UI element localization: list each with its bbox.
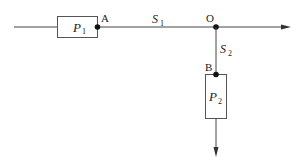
box-p1-subscript: 1	[82, 27, 86, 36]
point-o-label: O	[206, 12, 214, 24]
point-b-label: B	[205, 61, 212, 73]
box-p2-subscript: 2	[218, 97, 222, 106]
arrow-right-icon	[281, 25, 291, 30]
arrow-down-icon	[214, 147, 219, 157]
segment-s2-subscript: 2	[228, 49, 232, 58]
point-a-dot	[95, 24, 101, 30]
pipe-network-diagram: P 1 A S 1 O S 2 B P 2	[0, 0, 300, 163]
segment-s2-label: S	[220, 42, 226, 56]
point-b-dot	[213, 72, 219, 78]
box-p1-label: P	[72, 20, 81, 35]
point-a-label: A	[101, 12, 109, 24]
segment-s1-label: S	[152, 12, 158, 26]
segment-s1-subscript: 1	[160, 19, 164, 28]
box-p2-label: P	[208, 89, 217, 104]
